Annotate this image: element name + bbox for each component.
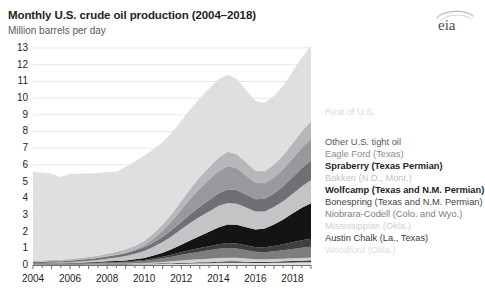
y-axis-tick-label: 0 — [6, 260, 28, 270]
y-axis-tick-label: 11 — [6, 76, 28, 86]
legend-item[interactable]: Bonespring (Texas and N.M. Permian) — [325, 198, 483, 207]
y-axis-tick-label: 8 — [6, 126, 28, 136]
y-axis-tick-label: 4 — [6, 193, 28, 203]
x-axis-tick-label: 2004 — [16, 274, 50, 284]
y-axis-tick-label: 13 — [6, 43, 28, 53]
page-title: Monthly U.S. crude oil production (2004–… — [8, 9, 256, 21]
svg-text:eia: eia — [438, 17, 456, 33]
legend-item[interactable]: Niobrara-Codell (Colo. and Wyo.) — [325, 210, 462, 219]
x-axis-tick-label: 2012 — [164, 274, 198, 284]
chart-page: Monthly U.S. crude oil production (2004–… — [0, 0, 485, 292]
x-axis-tick-label: 2010 — [127, 274, 161, 284]
x-axis-tick-label: 2014 — [201, 274, 235, 284]
x-axis-tick-label: 2006 — [53, 274, 87, 284]
legend-item[interactable]: Other U.S. tight oil — [325, 138, 401, 147]
legend-item[interactable]: Rest of U.S. — [325, 108, 375, 117]
legend-item[interactable]: Bakken (N.D., Mont.) — [325, 174, 412, 183]
chart-subtitle: Million barrels per day — [8, 25, 106, 36]
y-axis-tick-label: 12 — [6, 60, 28, 70]
x-axis-tick-label: 2008 — [90, 274, 124, 284]
x-axis-tick-label: 2018 — [275, 274, 309, 284]
y-axis-tick-label: 10 — [6, 93, 28, 103]
legend-item[interactable]: Austin Chalk (La., Texas) — [325, 234, 428, 243]
eia-logo-icon: eia — [433, 8, 477, 34]
y-axis-tick-label: 7 — [6, 143, 28, 153]
y-axis-tick-label: 5 — [6, 177, 28, 187]
legend-item[interactable]: Spraberry (Texas Permian) — [325, 162, 443, 171]
legend-item[interactable]: Woodford (Okla.) — [325, 246, 396, 255]
y-axis-tick-label: 9 — [6, 110, 28, 120]
chart-plot-area — [0, 40, 340, 272]
y-axis-tick-label: 2 — [6, 227, 28, 237]
y-axis-tick-label: 6 — [6, 160, 28, 170]
y-axis-tick-label: 1 — [6, 243, 28, 253]
stacked-areas — [33, 46, 311, 265]
y-axis-tick-label: 3 — [6, 210, 28, 220]
x-axis-tick-label: 2016 — [238, 274, 272, 284]
legend-item[interactable]: Wolfcamp (Texas and N.M. Permian) — [325, 186, 484, 195]
legend-item[interactable]: Mississippian (Okla.) — [325, 222, 411, 231]
legend-item[interactable]: Eagle Ford (Texas) — [325, 150, 404, 159]
